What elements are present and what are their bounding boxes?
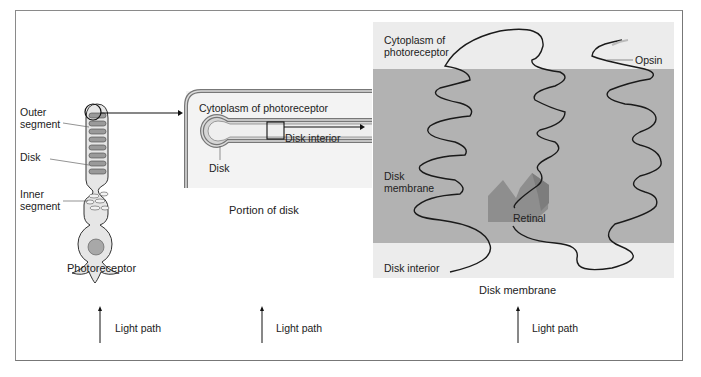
outer-segment-label: Outer segment: [20, 106, 60, 130]
outer-segment-label-line2: segment: [20, 118, 60, 130]
disk-membrane-label: Disk membrane: [384, 170, 434, 194]
light-path-label-2: Light path: [276, 322, 322, 334]
disk-label: Disk: [20, 151, 40, 163]
disk-membrane-label-line2: membrane: [384, 182, 434, 194]
inner-segment-label: Inner segment: [20, 188, 60, 212]
membrane-cytoplasm-label-line1: Cytoplasm of: [384, 34, 449, 46]
cytoplasm-label: Cytoplasm of photoreceptor: [199, 102, 328, 114]
membrane-cytoplasm-label: Cytoplasm of photoreceptor: [384, 34, 449, 58]
inner-segment-label-line1: Inner: [20, 188, 60, 200]
light-path-label-1: Light path: [115, 322, 161, 334]
membrane-cytoplasm-label-line2: photoreceptor: [384, 46, 449, 58]
disk-portion-disk-label: Disk: [209, 162, 229, 174]
opsin-label: Opsin: [635, 54, 662, 66]
disk-membrane-label-line1: Disk: [384, 170, 434, 182]
disk-membrane-graphic: [373, 22, 674, 278]
disk-membrane-caption: Disk membrane: [479, 284, 556, 296]
membrane-disk-interior-label: Disk interior: [384, 262, 439, 274]
inner-segment-label-line2: segment: [20, 200, 60, 212]
disk-interior-label: Disk interior: [285, 132, 340, 144]
diagram-graphics: [0, 0, 701, 377]
outer-segment-label-line1: Outer: [20, 106, 60, 118]
photoreceptor-caption: Photoreceptor: [67, 262, 136, 274]
light-path-label-3: Light path: [532, 322, 578, 334]
portion-of-disk-caption: Portion of disk: [229, 204, 299, 216]
retinal-label: Retinal: [513, 212, 546, 224]
